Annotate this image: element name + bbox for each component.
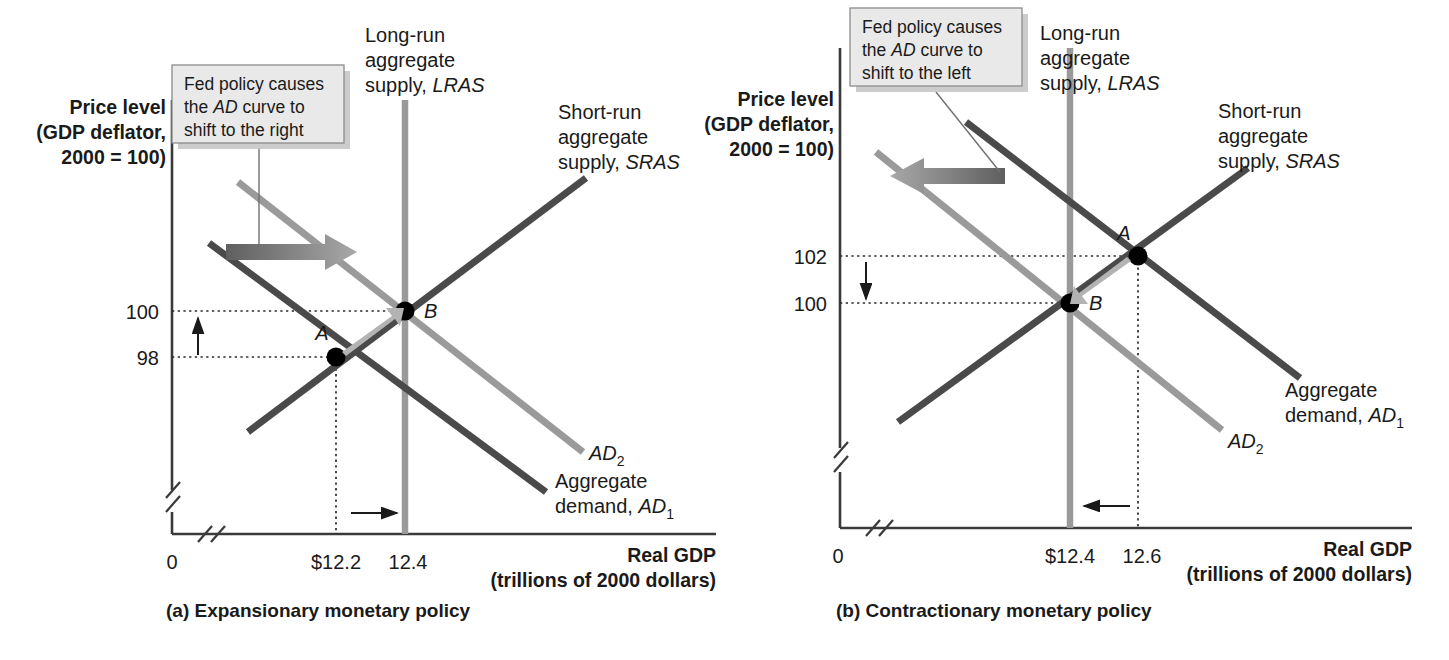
callout-line1-b: Fed policy causes [862,17,1002,37]
sras-label-pre-b: supply, [1218,150,1285,172]
y-axis-break2-a [166,496,180,512]
x-tick-124-b: $12.4 [1045,545,1095,567]
ad2-label-b: AD2 [1227,430,1264,457]
ad1-label-sub-a: 1 [666,506,674,522]
figure-container: Price level (GDP deflator, 2000 = 100) 1… [0,0,1449,660]
ad1-label-ital-a: AD [637,495,666,517]
callout-leader-b [936,92,1000,172]
y-tick-100-a: 100 [126,301,159,323]
ad1-label-line2-b: demand, AD1 [1285,404,1404,431]
lras-label-ital-a: LRAS [432,74,485,96]
y-tick-102-b: 102 [794,246,827,268]
x-axis-title-line2-a: (trillions of 2000 dollars) [491,569,716,591]
ad2-label-ital-a: AD [588,442,617,464]
y-axis-break2-b [834,456,848,472]
callout-line2-a: the AD curve to [184,97,305,117]
sras-label-line2-b: aggregate [1218,125,1308,147]
sras-label-line3-b: supply, SRAS [1218,150,1341,172]
figure-svg: Price level (GDP deflator, 2000 = 100) 1… [0,0,1449,660]
sras-label-ital-a: SRAS [625,151,680,173]
origin-label-a: 0 [166,551,177,573]
x-tick-124-a: 12.4 [389,551,428,573]
x-tick-126-b: 12.6 [1123,545,1162,567]
lras-label-line1-b: Long-run [1040,22,1120,44]
y-axis-title-line1-a: Price level [70,96,167,118]
lras-label-line2-b: aggregate [1040,47,1130,69]
shift-arrow-right-a [226,234,357,270]
callout-line3-a: shift to the right [184,120,304,140]
ad1-label-line1-b: Aggregate [1285,379,1377,401]
ad1-curve-a [209,243,546,492]
ad1-label-line2-a: demand, AD1 [555,495,674,522]
sras-label-line1-a: Short-run [558,101,641,123]
shift-arrow-left-b [890,158,1005,194]
callout-line2-ital-a: AD [212,97,238,117]
y-tick-100-b: 100 [794,293,827,315]
ad2-label-ital-b: AD [1227,430,1256,452]
y-axis-title-line2-a: (GDP deflator, [36,121,166,143]
caption-panel-b: (b) Contractionary monetary policy [836,600,1152,621]
sras-label-line2-a: aggregate [558,126,648,148]
callout-line2-ital-b: AD [890,40,916,60]
x-axis-title-line1-a: Real GDP [627,544,716,566]
lras-label-ital-b: LRAS [1107,72,1160,94]
ad1-label-pre-a: demand, [555,495,638,517]
sras-label-line1-b: Short-run [1218,100,1301,122]
callout-line2-b: the AD curve to [862,40,983,60]
ad2-curve-b [876,152,1222,430]
callout-line2-pre-a: the [184,97,213,117]
point-a-dot-panel-a [327,348,346,367]
point-label-a-panel-a: A [314,322,328,344]
callout-line2-post-b: curve to [916,40,983,60]
ad1-label-line1-a: Aggregate [555,470,647,492]
point-label-b-panel-b: B [1089,292,1102,314]
ad2-label-sub-b: 2 [1256,441,1264,457]
callout-line2-post-a: curve to [238,97,305,117]
x-axis-title-line1-b: Real GDP [1323,538,1412,560]
lras-label-line1-a: Long-run [365,24,445,46]
ad2-label-sub-a: 2 [617,453,625,469]
origin-label-b: 0 [832,545,843,567]
lras-label-line2-a: aggregate [365,49,455,71]
lras-label-pre-a: supply, [365,74,432,96]
caption-panel-a: (a) Expansionary monetary policy [166,600,471,621]
callout-line3-b: shift to the left [862,63,971,83]
panel-b-text: Price level (GDP deflator, 2000 = 100) 1… [704,17,1412,621]
callout-line2-pre-b: the [862,40,891,60]
point-label-b-panel-a: B [424,300,437,322]
y-axis-title-line1-b: Price level [738,88,835,110]
y-axis-title-line2-b: (GDP deflator, [704,113,834,135]
lras-label-pre-b: supply, [1040,72,1107,94]
sras-label-line3-a: supply, SRAS [558,151,681,173]
point-label-a-panel-b: A [1116,222,1130,244]
sras-label-pre-a: supply, [558,151,625,173]
panel-a-text: Price level (GDP deflator, 2000 = 100) 1… [36,24,716,621]
ad2-label-a: AD2 [588,442,625,469]
ad1-label-pre-b: demand, [1285,404,1368,426]
move-arrow-a [342,308,404,356]
x-axis-title-line2-b: (trillions of 2000 dollars) [1187,563,1412,585]
y-tick-98-a: 98 [137,347,159,369]
lras-label-line3-b: supply, LRAS [1040,72,1160,94]
point-a-dot-panel-b [1129,247,1148,266]
y-axis-title-line3-b: 2000 = 100) [729,138,834,160]
sras-label-ital-b: SRAS [1285,150,1340,172]
callout-line1-a: Fed policy causes [184,74,324,94]
x-tick-122-a: $12.2 [311,551,361,573]
lras-label-line3-a: supply, LRAS [365,74,485,96]
ad1-label-sub-b: 1 [1396,415,1404,431]
y-axis-title-line3-a: 2000 = 100) [61,146,166,168]
ad1-label-ital-b: AD [1367,404,1396,426]
